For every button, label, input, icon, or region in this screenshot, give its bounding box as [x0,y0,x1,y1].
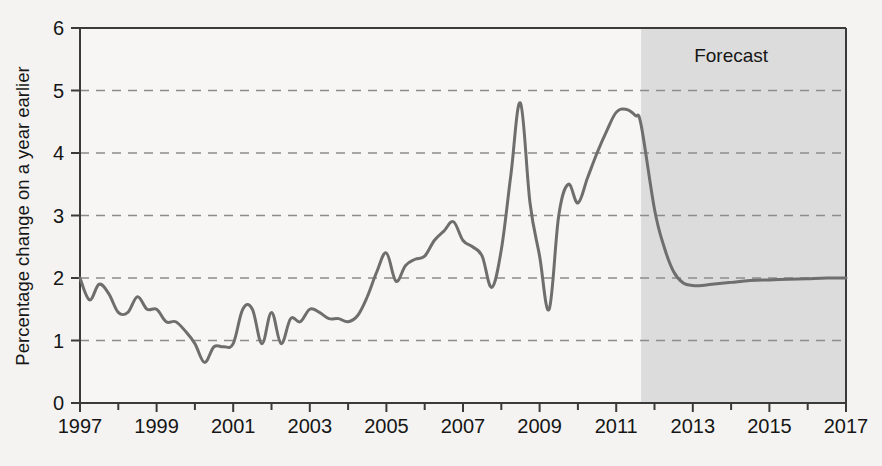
x-tick-label-2007: 2007 [441,415,486,437]
y-tick-label-1: 1 [53,330,64,352]
y-tick-label-6: 6 [53,17,64,39]
x-tick-label-2009: 2009 [517,415,562,437]
x-tick-label-2005: 2005 [364,415,409,437]
y-tick-label-3: 3 [53,205,64,227]
x-tick-label-1997: 1997 [58,415,103,437]
y-tick-label-2: 2 [53,267,64,289]
x-tick-label-1999: 1999 [134,415,179,437]
y-tick-label-0: 0 [53,392,64,414]
y-tick-label-4: 4 [53,142,64,164]
forecast-label: Forecast [694,45,769,66]
chart-container: 1997199920012003200520072009201120132015… [0,0,882,466]
x-tick-label-2013: 2013 [671,415,716,437]
chart-annotations: Forecast [694,45,769,66]
x-tick-label-2001: 2001 [211,415,256,437]
line-chart: 1997199920012003200520072009201120132015… [0,0,882,466]
x-tick-label-2003: 2003 [288,415,333,437]
x-tick-label-2017: 2017 [824,415,869,437]
y-tick-label-5: 5 [53,80,64,102]
x-tick-label-2011: 2011 [595,415,638,437]
x-tick-label-2015: 2015 [747,415,792,437]
y-axis-title: Percentage change on a year earlier [12,66,33,365]
